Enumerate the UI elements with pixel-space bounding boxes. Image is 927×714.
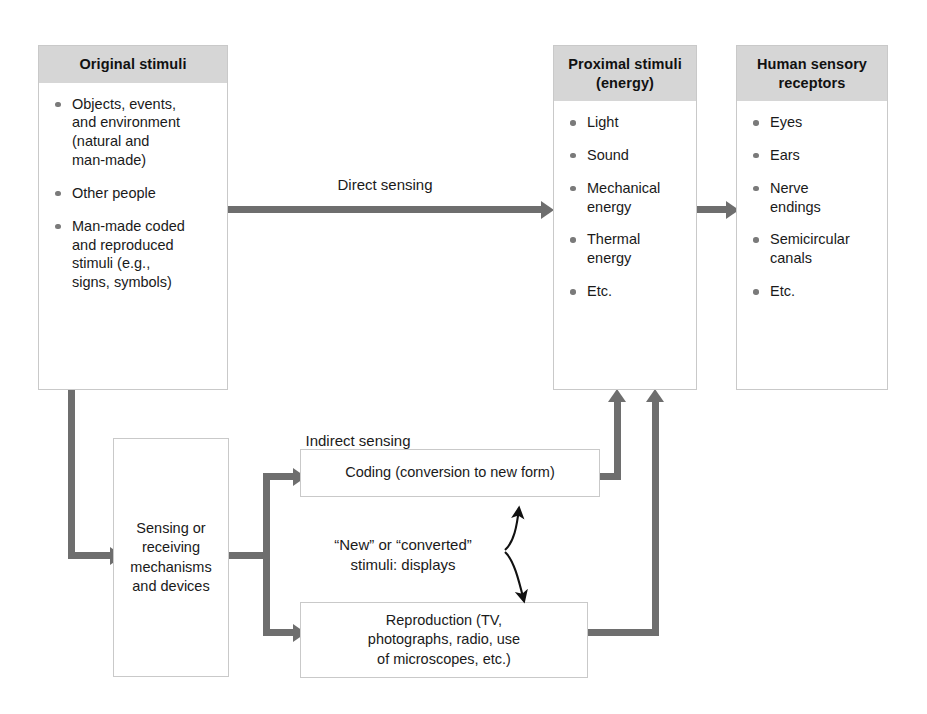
bullet-dot-icon <box>570 289 576 295</box>
displays-double-arrow-icon <box>478 495 548 615</box>
list-item: Etc. <box>568 282 688 301</box>
human-sensory-receptors-list: Eyes Ears Nerve endings Semicircular can… <box>751 113 879 301</box>
bullet-dot-icon <box>753 153 759 159</box>
list-item: Man-made coded and reproduced stimuli (e… <box>53 217 219 292</box>
list-item: Eyes <box>751 113 879 132</box>
box-human-sensory-receptors[interactable]: Human sensory receptors Eyes Ears Nerve … <box>736 45 888 390</box>
bullet-dot-icon <box>55 224 61 230</box>
list-item: Semicircular canals <box>751 230 879 268</box>
box-human-sensory-receptors-header: Human sensory receptors <box>737 46 887 101</box>
original-stimuli-list: Objects, events, and environment (natura… <box>53 95 219 293</box>
bullet-dot-icon <box>753 237 759 243</box>
list-item-label: Semicircular canals <box>770 231 850 266</box>
list-item: Light <box>568 113 688 132</box>
label-indirect-sensing: Indirect sensing <box>278 431 438 451</box>
connector-reproduction-to-proximal-arrowhead <box>646 389 664 402</box>
bullet-dot-icon <box>570 186 576 192</box>
bullet-dot-icon <box>753 186 759 192</box>
box-original-stimuli-header: Original stimuli <box>39 46 227 83</box>
list-item: Etc. <box>751 282 879 301</box>
list-item-label: Etc. <box>770 283 795 299</box>
list-item: Sound <box>568 146 688 165</box>
list-item-label: Nerve endings <box>770 180 821 215</box>
connector-reproduction-out-horizontal <box>588 629 659 636</box>
bullet-dot-icon <box>570 120 576 126</box>
connector-coding-up-vertical <box>614 400 621 480</box>
diagram-canvas: Direct sensing Indirect sensing “New” or… <box>0 0 927 714</box>
connector-original-down-horizontal <box>68 552 113 559</box>
connector-sensing-split-vertical <box>263 473 270 636</box>
connector-original-down-vertical <box>68 386 75 559</box>
connector-sensing-out-stub <box>229 552 267 559</box>
bullet-dot-icon <box>753 289 759 295</box>
bullet-dot-icon <box>753 120 759 126</box>
list-item-label: Mechanical energy <box>587 180 660 215</box>
list-item-label: Etc. <box>587 283 612 299</box>
list-item-label: Ears <box>770 147 800 163</box>
box-proximal-stimuli[interactable]: Proximal stimuli (energy) Light Sound Me… <box>553 45 697 390</box>
box-coding[interactable]: Coding (conversion to new form) <box>300 449 600 497</box>
label-direct-sensing: Direct sensing <box>310 175 460 195</box>
bullet-dot-icon <box>570 153 576 159</box>
list-item-label: Objects, events, and environment (natura… <box>72 96 180 169</box>
box-proximal-stimuli-header: Proximal stimuli (energy) <box>554 46 696 101</box>
list-item: Mechanical energy <box>568 179 688 217</box>
list-item-label: Thermal energy <box>587 231 640 266</box>
connector-sensing-to-coding-horizontal <box>263 473 296 480</box>
connector-proximal-to-receptors-line <box>697 206 729 213</box>
bullet-dot-icon <box>55 102 61 108</box>
list-item-label: Man-made coded and reproduced stimuli (e… <box>72 218 185 291</box>
proximal-stimuli-list: Light Sound Mechanical energy Thermal en… <box>568 113 688 301</box>
list-item: Nerve endings <box>751 179 879 217</box>
list-item-label: Light <box>587 114 618 130</box>
bullet-dot-icon <box>570 237 576 243</box>
list-item-label: Sound <box>587 147 629 163</box>
list-item: Objects, events, and environment (natura… <box>53 95 219 170</box>
list-item: Thermal energy <box>568 230 688 268</box>
box-sensing-devices[interactable]: Sensing or receiving mechanisms and devi… <box>113 438 229 677</box>
connector-reproduction-up-vertical <box>652 400 659 636</box>
list-item: Ears <box>751 146 879 165</box>
connector-sensing-to-reproduction-horizontal <box>263 629 296 636</box>
list-item-label: Other people <box>72 185 156 201</box>
box-original-stimuli-body: Objects, events, and environment (natura… <box>39 83 227 303</box>
bullet-dot-icon <box>55 191 61 197</box>
label-new-converted-stimuli: “New” or “converted” stimuli: displays <box>318 535 488 575</box>
list-item-label: Eyes <box>770 114 802 130</box>
connector-direct-sensing-line <box>228 206 544 213</box>
connector-coding-to-proximal-arrowhead <box>608 389 626 402</box>
box-human-sensory-receptors-body: Eyes Ears Nerve endings Semicircular can… <box>737 101 887 311</box>
box-original-stimuli[interactable]: Original stimuli Objects, events, and en… <box>38 45 228 390</box>
box-proximal-stimuli-body: Light Sound Mechanical energy Thermal en… <box>554 101 696 311</box>
list-item: Other people <box>53 184 219 203</box>
